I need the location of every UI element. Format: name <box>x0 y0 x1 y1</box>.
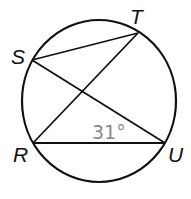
point-label-s: S <box>11 45 25 68</box>
angle-measure-label: 31° <box>92 121 126 143</box>
circle-diagram: S T R U 31° <box>0 0 191 199</box>
chord-st <box>32 33 138 60</box>
point-label-t: T <box>130 5 145 28</box>
point-label-u: U <box>168 143 184 166</box>
point-label-r: R <box>13 143 28 166</box>
